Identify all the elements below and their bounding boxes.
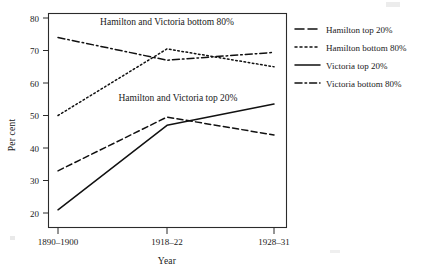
legend-label-hamilton-top-20: Hamilton top 20% [326, 25, 393, 35]
legend-label-victoria-top-20: Victoria top 20% [326, 61, 388, 71]
legend-label-victoria-bottom-80: Victoria bottom 80% [326, 79, 402, 89]
y-tick-label-60: 60 [30, 79, 40, 89]
line-chart-figure: 80 70 60 50 40 30 20 Per cent 1890–1900 … [0, 0, 424, 273]
x-tick-label-1890-1900: 1890–1900 [38, 237, 79, 247]
figure-background [0, 0, 424, 273]
y-tick-label-40: 40 [30, 144, 40, 154]
annotation-bottom-80: Hamilton and Victoria bottom 80% [100, 17, 234, 27]
legend-label-hamilton-bottom-80: Hamilton bottom 80% [326, 43, 407, 53]
y-tick-label-30: 30 [30, 176, 40, 186]
y-tick-label-50: 50 [30, 111, 40, 121]
y-axis-title: Per cent [7, 119, 17, 152]
y-tick-label-70: 70 [30, 46, 40, 56]
y-tick-label-80: 80 [30, 14, 40, 24]
x-axis-title: Year [158, 256, 177, 266]
annotation-top-20: Hamilton and Victoria top 20% [118, 93, 237, 103]
x-tick-label-1928-31: 1928–31 [258, 237, 290, 247]
y-tick-label-20: 20 [30, 209, 40, 219]
x-tick-label-1918-22: 1918–22 [151, 237, 183, 247]
